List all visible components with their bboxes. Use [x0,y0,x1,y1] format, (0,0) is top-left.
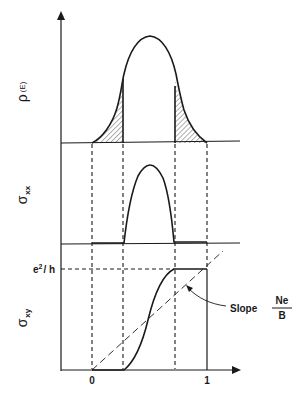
rho-label-main: ρ [14,94,30,102]
sigma-xy-label: σxy [14,308,32,327]
y-axis-arrow-icon [57,11,65,20]
left-hatched-tail [92,80,123,143]
rho-label: ρ(E) [14,81,30,102]
svg-text:σxx: σxx [14,185,32,204]
x-tick-label-0: 0 [89,375,95,386]
sigma-xx-baseline [61,243,240,244]
svg-text:ρ(E): ρ(E) [14,81,30,102]
rho-baseline [61,141,240,143]
sigma-xy-label-sub: xy [23,308,32,317]
plateau-value-label: e2/ h [33,263,55,275]
quantum-hall-diagram: ρ(E) σxx σxy e2/ h 0 1 Slope Ne B [0,0,303,399]
svg-text:σxy: σxy [14,308,32,327]
slope-denominator: B [278,310,285,321]
sigma-xx-label: σxx [14,185,32,204]
sigma-xx-label-sub: xx [23,185,32,194]
slope-numerator: Ne [276,295,289,306]
rho-label-sub: (E) [18,81,27,92]
slope-label: Slope [230,303,258,314]
slope-arrow-icon [186,285,193,292]
sigma-xx-curve [92,165,207,243]
sigma-xy-label-main: σ [14,318,30,327]
x-axis-arrow-icon [232,366,241,374]
sigma-xx-label-main: σ [14,195,30,204]
x-tick-label-1: 1 [204,375,210,386]
